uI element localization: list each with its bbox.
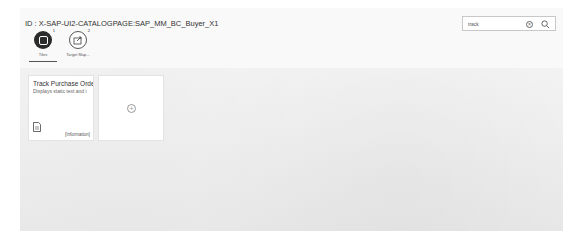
tile-track-purchase-order[interactable]: Track Purchase Order Displays static tex…: [28, 75, 94, 141]
add-tile-button[interactable]: +: [98, 75, 164, 141]
tab-label: Tiles: [39, 52, 47, 57]
tab-count: 2: [88, 28, 90, 33]
tab-bar: 1 Tiles 2 Target Map...: [28, 28, 98, 68]
plus-icon: +: [127, 104, 136, 113]
tab-count: 1: [53, 28, 55, 33]
tiles-icon: [34, 31, 52, 49]
search-input[interactable]: [463, 17, 523, 30]
search-field[interactable]: ×: [462, 16, 556, 31]
tile-subtitle: Displays static text and i: [33, 88, 93, 94]
document-icon: [33, 122, 41, 132]
tile-title: Track Purchase Order: [33, 80, 93, 87]
search-icon[interactable]: [541, 20, 550, 29]
catalog-panel: ID : X-SAP-UI2-CATALOGPAGE:SAP_MM_BC_Buy…: [20, 8, 563, 231]
tab-label: Target Map...: [66, 52, 89, 57]
catalog-header: ID : X-SAP-UI2-CATALOGPAGE:SAP_MM_BC_Buy…: [20, 8, 563, 68]
clear-icon[interactable]: ×: [526, 21, 533, 28]
tile-container: Track Purchase Order Displays static tex…: [28, 75, 168, 141]
page-title: ID : X-SAP-UI2-CATALOGPAGE:SAP_MM_BC_Buy…: [25, 19, 218, 28]
tab-tiles[interactable]: 1 Tiles: [28, 28, 58, 64]
tab-target-mappings[interactable]: 2 Target Map...: [63, 28, 93, 64]
target-mapping-icon: [69, 31, 87, 49]
tile-footer: [Information]: [65, 132, 90, 137]
